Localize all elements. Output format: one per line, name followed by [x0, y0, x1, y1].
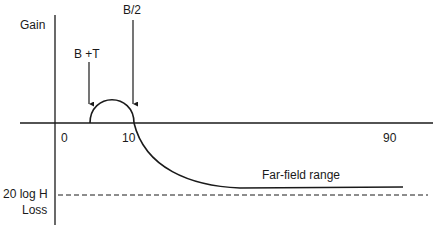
far-field-label: Far-field range	[262, 168, 340, 182]
start-marker-label: B +T	[74, 47, 100, 61]
x-tick-10: 10	[122, 131, 135, 145]
loss-label: Loss	[22, 203, 47, 217]
reference-level-label: 20 log H	[3, 187, 48, 201]
gain-loss-diagram	[0, 0, 442, 235]
gain-label: Gain	[20, 18, 45, 32]
peak-end-marker-label: B/2	[123, 3, 141, 17]
gain-arc	[90, 100, 134, 123]
x-tick-90: 90	[383, 131, 396, 145]
x-tick-0: 0	[61, 131, 68, 145]
